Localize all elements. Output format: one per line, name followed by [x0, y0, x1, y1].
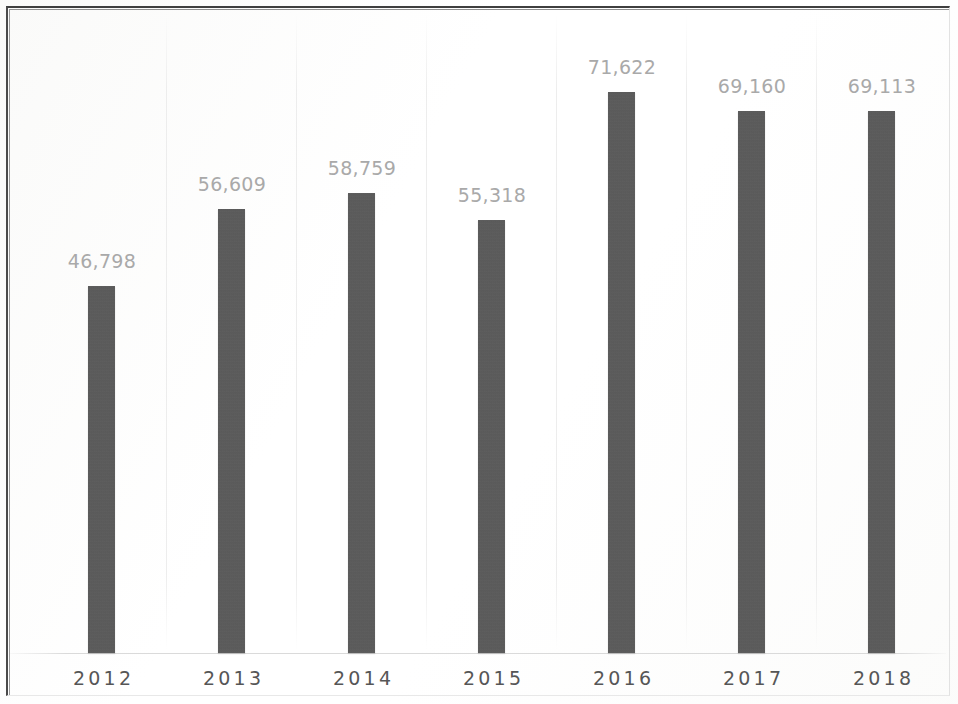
bar[interactable] — [478, 220, 505, 653]
bar-group: 71,6222016 — [557, 0, 687, 704]
category-axis-label: 2012 — [37, 667, 167, 689]
bar-group: 69,1602017 — [687, 0, 817, 704]
category-axis-label: 2016 — [557, 667, 687, 689]
bar-value-label: 71,622 — [557, 56, 687, 78]
bar-value-label: 69,113 — [817, 75, 947, 97]
category-axis-label: 2017 — [687, 667, 817, 689]
bar-chart-figure: 46,798201256,609201358,759201455,3182015… — [0, 0, 958, 704]
category-axis-label: 2013 — [167, 667, 297, 689]
bar-value-label: 46,798 — [37, 250, 167, 272]
bar-group: 55,3182015 — [427, 0, 557, 704]
bar[interactable] — [88, 286, 115, 653]
bar[interactable] — [738, 111, 765, 653]
bar-value-label: 69,160 — [687, 75, 817, 97]
bar[interactable] — [348, 193, 375, 653]
category-axis-label: 2018 — [817, 667, 947, 689]
bar[interactable] — [608, 92, 635, 653]
bar-value-label: 56,609 — [167, 173, 297, 195]
bar-group: 56,6092013 — [167, 0, 297, 704]
bar[interactable] — [218, 209, 245, 653]
bar-value-label: 58,759 — [297, 157, 427, 179]
bar-group: 46,7982012 — [37, 0, 167, 704]
bar-group: 58,7592014 — [297, 0, 427, 704]
plot-area: 46,798201256,609201358,759201455,3182015… — [0, 0, 958, 704]
category-axis-label: 2014 — [297, 667, 427, 689]
bar-value-label: 55,318 — [427, 184, 557, 206]
bar[interactable] — [868, 111, 895, 653]
bar-group: 69,1132018 — [817, 0, 947, 704]
category-axis-label: 2015 — [427, 667, 557, 689]
